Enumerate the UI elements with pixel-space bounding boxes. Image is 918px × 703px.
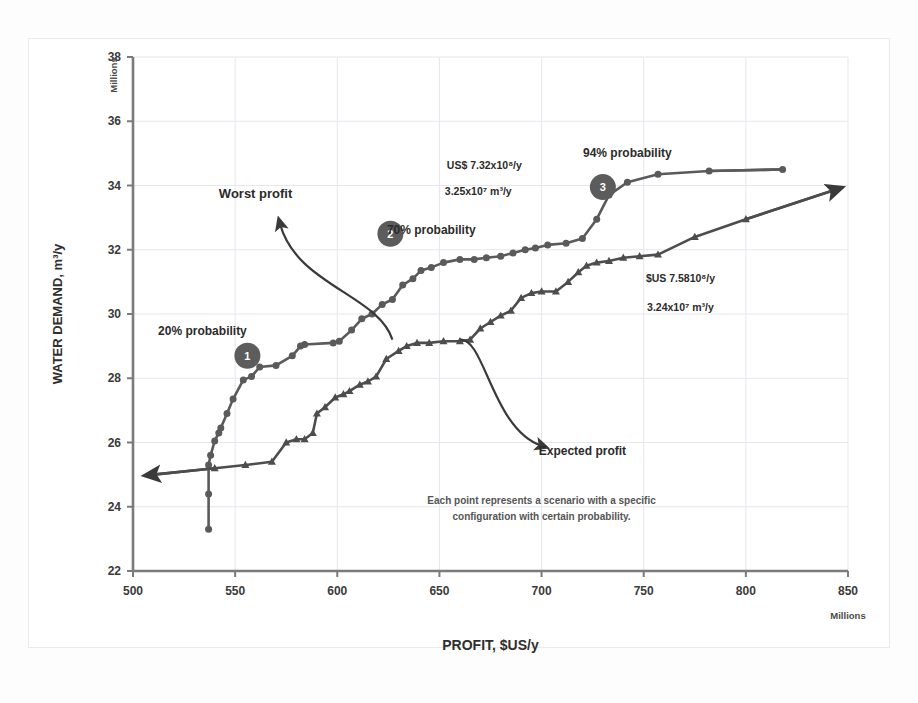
footnote-line-2: configuration with certain probability.: [452, 511, 630, 522]
worst-profit-callout-arrow: [280, 224, 392, 340]
data-point-circle: [240, 376, 247, 383]
data-point-circle: [456, 256, 463, 263]
data-point-circle: [389, 296, 396, 303]
probability-badge-3: 3: [590, 174, 616, 200]
x-axis-unit: Millions: [830, 610, 865, 621]
data-point-circle: [230, 396, 237, 403]
data-point-circle: [593, 216, 600, 223]
data-point-circle: [624, 179, 631, 186]
data-point-circle: [655, 171, 662, 178]
badge-label: 1: [244, 350, 250, 362]
data-point-circle: [409, 275, 416, 282]
y-tick-label: 22: [108, 564, 122, 578]
data-point-circle: [399, 282, 406, 289]
data-point-circle: [224, 410, 231, 417]
value-demand-top: 3.25x10⁷ m³/y: [445, 185, 512, 197]
data-point-circle: [330, 339, 337, 346]
data-point-circle: [522, 246, 529, 253]
expected-profit-callout-arrow: [460, 340, 542, 446]
data-point-circle: [440, 259, 447, 266]
prob-70-label: 70% probability: [387, 223, 476, 237]
data-point-circle: [336, 338, 343, 345]
data-point-circle: [563, 240, 570, 247]
scatter-chart: 2224262830323436385005506006507007508008…: [0, 0, 918, 703]
data-point-circle: [217, 425, 224, 432]
series-line: [209, 169, 783, 529]
x-tick-label: 850: [838, 584, 858, 598]
series-circles: [205, 166, 786, 533]
data-point-circle: [256, 364, 263, 371]
value-profit-bottom: $US 7.5810⁸/y: [646, 272, 715, 284]
data-point-circle: [248, 373, 255, 380]
data-point-circle: [428, 264, 435, 271]
series-end-arrow: [709, 169, 783, 171]
y-axis-unit: Millions: [108, 57, 119, 92]
data-point-circle: [483, 254, 490, 261]
footnote-line-1: Each point represents a scenario with a …: [427, 495, 656, 506]
y-tick-label: 30: [108, 307, 122, 321]
data-point-circle: [207, 452, 214, 459]
y-axis-title: WATER DEMAND, m³/y: [50, 243, 65, 384]
x-tick-label: 750: [634, 584, 654, 598]
figure-container: 2224262830323436385005506006507007508008…: [0, 0, 918, 703]
x-tick-label: 600: [327, 584, 347, 598]
data-point-circle: [497, 253, 504, 260]
data-point-circle: [471, 256, 478, 263]
data-point-triangle: [309, 429, 317, 436]
data-point-circle: [205, 526, 212, 533]
y-tick-label: 28: [108, 371, 122, 385]
expected-profit-label: Expected profit: [539, 444, 626, 458]
data-point-circle: [273, 362, 280, 369]
worst-profit-label: Worst profit: [219, 186, 293, 201]
data-point-circle: [532, 245, 539, 252]
y-tick-label: 32: [108, 243, 122, 257]
data-point-circle: [544, 241, 551, 248]
badge-label: 3: [600, 181, 606, 193]
data-point-circle: [418, 267, 425, 274]
data-point-circle: [205, 490, 212, 497]
prob-20-label: 20% probability: [158, 324, 247, 338]
series-triangles: [149, 186, 837, 478]
x-tick-label: 650: [429, 584, 449, 598]
data-point-circle: [348, 327, 355, 334]
series-start-arrow: [153, 468, 214, 474]
x-tick-label: 700: [532, 584, 552, 598]
y-tick-label: 34: [108, 179, 122, 193]
x-tick-label: 800: [736, 584, 756, 598]
data-point-circle: [301, 341, 308, 348]
probability-badge-1: 1: [234, 343, 260, 369]
data-point-circle: [379, 301, 386, 308]
x-tick-label: 550: [225, 584, 245, 598]
y-tick-label: 26: [108, 436, 122, 450]
data-point-circle: [510, 250, 517, 257]
x-tick-label: 500: [123, 584, 143, 598]
data-point-circle: [289, 352, 296, 359]
data-point-circle: [211, 437, 218, 444]
series-end-arrow: [746, 190, 834, 219]
data-point-circle: [358, 315, 365, 322]
value-profit-top: US$ 7.32x10⁸/y: [447, 159, 522, 171]
data-point-circle: [579, 235, 586, 242]
x-axis-title: PROFIT, $US/y: [442, 637, 539, 653]
probability-badges: 123: [234, 174, 615, 369]
y-tick-label: 36: [108, 114, 122, 128]
value-demand-bottom: 3.24x10⁷ m³/y: [647, 301, 714, 313]
series-line: [153, 190, 833, 474]
y-tick-label: 24: [108, 500, 122, 514]
prob-94-label: 94% probability: [583, 146, 672, 160]
